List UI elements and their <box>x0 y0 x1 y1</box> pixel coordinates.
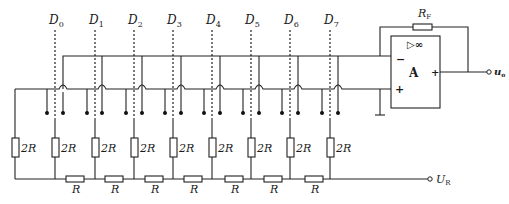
svg-text:2R: 2R <box>256 142 272 155</box>
bit-label-d4: D4 <box>205 13 221 29</box>
svg-text:R: R <box>71 183 80 196</box>
bit-label-d7: D7 <box>323 13 339 29</box>
resistor-2r-terminal <box>12 138 19 157</box>
resistor-r-1 <box>105 176 123 182</box>
bit-label-d2: D2 <box>127 13 143 29</box>
resistor-2r-3 <box>170 138 177 157</box>
svg-text:2R: 2R <box>178 142 194 155</box>
svg-text:R: R <box>150 183 159 196</box>
op-amp: ▷∞ − + A + <box>391 36 440 108</box>
resistor-2r-4 <box>209 138 216 157</box>
svg-text:R: R <box>269 183 278 196</box>
r2r-dac-circuit: D0 D1 D2 D3 D4 D5 D6 D7 <box>0 0 509 204</box>
resistor-2r-6 <box>287 138 294 157</box>
svg-text:UR: UR <box>436 173 451 187</box>
resistor-r-4 <box>225 176 243 182</box>
resistor-rf <box>413 24 432 30</box>
svg-text:RF: RF <box>417 7 431 21</box>
bit-labels: D0 D1 D2 D3 D4 D5 D6 D7 <box>48 13 339 29</box>
svg-text:R: R <box>110 183 119 196</box>
svg-text:▷∞: ▷∞ <box>407 39 423 50</box>
svg-text:R: R <box>230 183 239 196</box>
series-resistor-labels: R R R R R R R <box>71 183 319 196</box>
svg-text:2R: 2R <box>100 142 116 155</box>
svg-text:−: − <box>396 53 405 66</box>
bit-label-d3: D3 <box>166 13 182 29</box>
svg-text:+: + <box>431 67 439 78</box>
inverting-bus <box>63 56 391 113</box>
svg-text:A: A <box>408 66 419 80</box>
resistor-2r-1 <box>92 138 99 157</box>
svg-text:2R: 2R <box>139 142 155 155</box>
bit-label-d5: D5 <box>244 13 260 29</box>
resistor-r-2 <box>145 176 163 182</box>
resistor-r-3 <box>184 176 202 182</box>
svg-text:R: R <box>189 183 198 196</box>
output-terminal: uo <box>440 66 505 78</box>
svg-text:2R: 2R <box>335 142 351 155</box>
svg-text:2R: 2R <box>60 142 76 155</box>
svg-text:R: R <box>310 183 319 196</box>
svg-text:uo: uo <box>494 66 505 78</box>
resistor-2r-0 <box>52 138 59 157</box>
bit-label-d6: D6 <box>283 13 299 29</box>
resistor-2r-7 <box>327 138 334 157</box>
shunt-resistor-labels: 2R 2R 2R 2R 2R 2R 2R 2R 2R <box>20 142 351 155</box>
resistor-r-5 <box>264 176 282 182</box>
switch-wipers <box>55 118 330 138</box>
resistor-r-0 <box>66 176 84 182</box>
svg-text:2R: 2R <box>295 142 311 155</box>
svg-text:2R: 2R <box>217 142 233 155</box>
resistor-2r-5 <box>248 138 255 157</box>
resistor-r-6 <box>305 176 323 182</box>
switch-control-lines <box>55 30 330 118</box>
ladder-rail <box>15 176 428 182</box>
reference-terminal: UR <box>428 173 451 187</box>
svg-text:+: + <box>395 83 404 96</box>
bit-label-d0: D0 <box>48 13 64 29</box>
resistor-2r-2 <box>131 138 138 157</box>
svg-text:2R: 2R <box>20 142 36 155</box>
switch-contacts <box>45 111 340 115</box>
bit-label-d1: D1 <box>88 13 104 29</box>
